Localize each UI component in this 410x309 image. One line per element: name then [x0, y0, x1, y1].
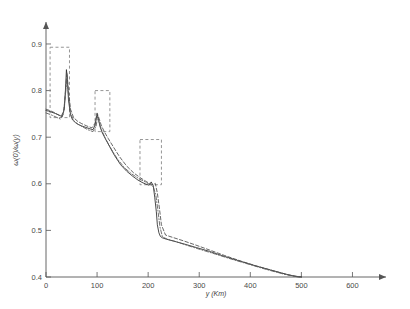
y-tick-label: 0.4 [32, 273, 42, 282]
y-axis-label: ω(0)/ω(y) [11, 134, 20, 166]
box-3 [140, 140, 161, 185]
series-dashed [46, 73, 301, 277]
x-tick-label: 400 [244, 281, 257, 290]
series-dash-dot [46, 78, 301, 277]
y-tick-label: 0.7 [32, 133, 42, 142]
y-axis-ticks: 0.40.50.60.70.80.9 [32, 40, 51, 282]
x-tick-label: 600 [346, 281, 359, 290]
y-tick-label: 0.8 [32, 86, 42, 95]
x-axis-ticks: 0100200300400500600 [44, 272, 359, 290]
y-axis-arrow [43, 22, 49, 29]
x-tick-label: 300 [193, 281, 206, 290]
data-series-group [46, 70, 301, 277]
y-tick-label: 0.5 [32, 226, 42, 235]
series-solid [46, 70, 301, 277]
axes [43, 22, 386, 280]
annotation-boxes [50, 47, 161, 184]
chart-figure: 0100200300400500600 0.40.50.60.70.80.9 y… [0, 0, 410, 309]
x-tick-label: 100 [91, 281, 104, 290]
y-tick-label: 0.9 [32, 40, 42, 49]
x-tick-label: 200 [142, 281, 155, 290]
x-axis-arrow [379, 274, 386, 280]
x-tick-label: 500 [295, 281, 308, 290]
x-axis-label: y (Km) [205, 290, 227, 298]
box-2 [95, 91, 110, 132]
y-tick-label: 0.6 [32, 179, 42, 188]
x-tick-label: 0 [44, 281, 48, 290]
